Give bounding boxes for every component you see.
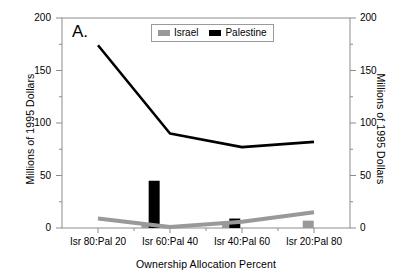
- legend-label-palestine: Palestine: [225, 27, 266, 38]
- x-axis-title: Ownership Allocation Percent: [62, 258, 350, 270]
- bar-israel-3: [303, 221, 314, 228]
- left-axis-ticks: [56, 18, 62, 228]
- right-tick-200: 200: [360, 12, 400, 23]
- legend-label-israel: Israel: [174, 27, 198, 38]
- bottom-axis-ticks: [98, 228, 314, 233]
- x-tick-4: Isr 20:Pal 80: [269, 236, 359, 247]
- left-tick-100: 100: [11, 117, 51, 128]
- right-tick-150: 150: [360, 65, 400, 76]
- chart-figure: A. Israel Palestine Millions of 1995 Dol…: [0, 0, 408, 279]
- right-axis-ticks: [350, 18, 356, 228]
- right-tick-100: 100: [360, 117, 400, 128]
- right-tick-0: 0: [360, 222, 400, 233]
- left-tick-0: 0: [11, 222, 51, 233]
- left-tick-150: 150: [11, 65, 51, 76]
- plot-frame: [62, 18, 350, 228]
- legend-swatch-palestine: [209, 30, 221, 36]
- bar-palestine-1: [149, 181, 160, 228]
- left-tick-50: 50: [11, 170, 51, 181]
- legend-swatch-israel: [158, 30, 170, 36]
- legend-item-israel: Israel: [158, 27, 198, 38]
- panel-label: A.: [72, 22, 88, 42]
- right-tick-50: 50: [360, 170, 400, 181]
- left-tick-200: 200: [11, 12, 51, 23]
- chart-legend: Israel Palestine: [151, 24, 274, 42]
- legend-item-palestine: Palestine: [209, 27, 266, 38]
